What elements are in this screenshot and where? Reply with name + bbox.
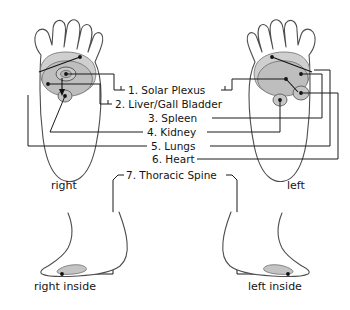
- bracket-solar-plexus-right: [221, 86, 225, 90]
- bracket-liver-left: [108, 100, 112, 104]
- right-heart-arrow-dot: [78, 55, 82, 59]
- right-foot-sole-group: [35, 20, 103, 182]
- bracket-solar-plexus-left: [121, 86, 125, 90]
- reflexology-diagram: 1. Solar Plexus 2. Liver/Gall Bladder 3.…: [0, 0, 350, 310]
- label-right-inside: right inside: [34, 281, 96, 293]
- legend-item-kidney: 4. Kidney: [147, 126, 196, 138]
- right-inside-anchor-dot: [60, 272, 64, 276]
- label-left-sole: left: [287, 180, 305, 192]
- legend-item-solar-plexus: 1. Solar Plexus: [128, 84, 205, 96]
- left-foot-sole-group: [247, 20, 315, 182]
- label-right-sole: right: [51, 180, 77, 192]
- legend-item-lungs: 5. Lungs: [151, 140, 195, 152]
- left-upper-arrow-dot: [270, 55, 274, 59]
- right-inside-foot-group: [41, 212, 127, 277]
- legend-item-liver-gall-bladder: 2. Liver/Gall Bladder: [115, 98, 222, 110]
- legend-item-spleen: 3. Spleen: [148, 112, 197, 124]
- legend-item-heart: 6. Heart: [152, 153, 195, 165]
- label-left-inside: left inside: [248, 281, 302, 293]
- legend-item-thoracic-spine: 7. Thoracic Spine: [126, 169, 217, 181]
- left-inside-foot-group: [223, 212, 309, 277]
- left-inside-anchor-dot: [286, 272, 290, 276]
